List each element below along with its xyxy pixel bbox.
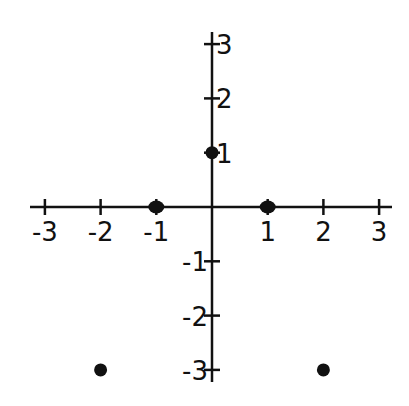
data-point bbox=[260, 201, 276, 214]
y-tick-label: -1 bbox=[182, 247, 208, 277]
y-tick-label: 3 bbox=[216, 30, 233, 60]
data-point bbox=[148, 201, 164, 214]
data-point bbox=[94, 363, 107, 376]
x-tick-label: -3 bbox=[32, 217, 58, 247]
x-tick-label: 2 bbox=[315, 217, 332, 247]
x-tick-label: 1 bbox=[259, 217, 276, 247]
data-point bbox=[206, 146, 219, 159]
x-tick-label: -2 bbox=[88, 217, 114, 247]
y-tick-label: 2 bbox=[216, 84, 233, 114]
x-tick-label: 3 bbox=[371, 217, 388, 247]
x-tick-label: -1 bbox=[143, 217, 169, 247]
y-tick-label: -2 bbox=[182, 302, 208, 332]
y-tick-label: -3 bbox=[182, 356, 208, 386]
data-point bbox=[317, 363, 330, 376]
plot-canvas: -3-2-1123 321-1-2-3 bbox=[0, 0, 409, 406]
scatter-plot: -3-2-1123 321-1-2-3 bbox=[0, 0, 409, 406]
y-tick-label: 1 bbox=[216, 139, 233, 169]
